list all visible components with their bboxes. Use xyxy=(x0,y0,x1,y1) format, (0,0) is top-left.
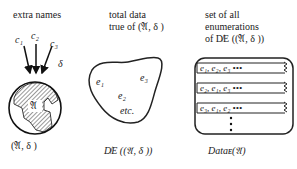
delta-label: δ xyxy=(58,58,63,70)
total-data-heading-2: true of (𝔄, δ ) xyxy=(109,21,164,33)
name-c1: c₁ xyxy=(15,34,23,46)
name-c3: c₃ xyxy=(50,38,58,50)
enumerations-heading-1: set of all xyxy=(205,9,239,21)
vertical-ellipsis xyxy=(230,117,232,131)
item-e3: e₃ xyxy=(140,72,148,84)
enumerations-caption: Dataᴇ(𝔄) xyxy=(208,145,246,157)
enumeration-row-1: e₁, e₂, e₃ ••• xyxy=(200,62,242,74)
structure-caption: (𝔄, δ ) xyxy=(11,140,37,152)
structure-label: 𝔄 xyxy=(30,100,37,112)
extra-names-heading: extra names xyxy=(13,9,61,21)
name-c2: c₂ xyxy=(31,30,39,42)
item-e2: e₂ xyxy=(118,90,126,102)
item-e1: e₁ xyxy=(96,76,104,88)
enumeration-row-3: e₃, e₁, e₂ ••• xyxy=(200,102,242,114)
enumerations-heading-2: enumerations xyxy=(205,21,259,33)
enumeration-row-2: e₂, e₁, e₃ ••• xyxy=(200,82,242,94)
total-data-caption: D̸E ((𝔄, δ )) xyxy=(104,145,152,157)
total-data-heading-1: total data xyxy=(109,9,146,21)
arrows xyxy=(24,44,52,73)
enumerations-heading-3: of D̸E ((𝔄, δ )) xyxy=(205,33,264,45)
item-etc: etc. xyxy=(120,105,134,117)
